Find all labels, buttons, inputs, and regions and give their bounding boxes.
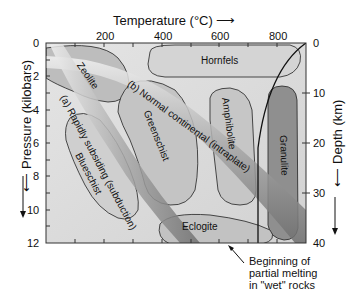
d-tick-0: 0 bbox=[313, 37, 319, 49]
p-tick-2: 2 bbox=[33, 70, 39, 82]
eclogite-label: Eclogite bbox=[182, 221, 218, 232]
hornfels-label: Hornfels bbox=[201, 55, 238, 66]
x-tick-600: 600 bbox=[211, 30, 229, 42]
d-tick-30: 30 bbox=[313, 187, 325, 199]
y-axis-right-title: ⟵ Depth (km) bbox=[330, 97, 345, 187]
melting-annotation: Beginning of partial melting in "wet" ro… bbox=[249, 255, 317, 291]
p-tick-12: 12 bbox=[27, 237, 39, 249]
pressure-arrow-icon bbox=[20, 211, 26, 218]
x-axis-title: Temperature (°C) ⟶ bbox=[113, 13, 235, 28]
p-tick-6: 6 bbox=[33, 137, 39, 149]
x-tick-200: 200 bbox=[96, 30, 114, 42]
x-tick-800: 800 bbox=[269, 30, 287, 42]
d-tick-40: 40 bbox=[313, 237, 325, 249]
y-axis-left-title: ⟵ Pressure (kilobars) bbox=[19, 72, 34, 192]
granulite-label: Granulite bbox=[278, 135, 290, 176]
p-tick-8: 8 bbox=[33, 170, 39, 182]
depth-arrow-icon bbox=[332, 228, 338, 235]
d-tick-10: 10 bbox=[313, 87, 325, 99]
p-tick-10: 10 bbox=[27, 204, 39, 216]
d-tick-20: 20 bbox=[313, 137, 325, 149]
p-tick-4: 4 bbox=[33, 104, 39, 116]
p-tick-0: 0 bbox=[33, 37, 39, 49]
x-tick-400: 400 bbox=[154, 30, 172, 42]
